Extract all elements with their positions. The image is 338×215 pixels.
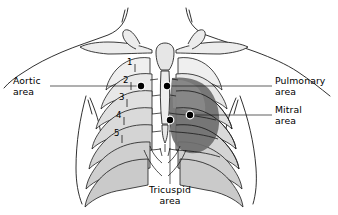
tricuspid-point-marker	[166, 116, 175, 125]
label-tricuspid-area: Tricuspid area	[126, 184, 214, 207]
rib-number-4: 4	[116, 111, 121, 120]
rib-number-3: 3	[119, 93, 124, 102]
label-mitral-area: Mitral area	[275, 104, 302, 127]
rib-number-2: 2	[123, 76, 128, 85]
label-pulmonary-area: Pulmonary area	[275, 75, 325, 98]
mitral-point-marker	[186, 111, 195, 120]
rib-number-5: 5	[114, 129, 119, 138]
aortic-point-marker	[137, 82, 146, 91]
pulmonary-point-marker	[163, 82, 172, 91]
label-aortic-area: Aortic area	[13, 75, 41, 98]
rib-number-1: 1	[127, 58, 132, 67]
cardiac-auscultation-figure: 1 2 3 4 5 Aortic area Pulmonary area Mit…	[0, 0, 338, 215]
